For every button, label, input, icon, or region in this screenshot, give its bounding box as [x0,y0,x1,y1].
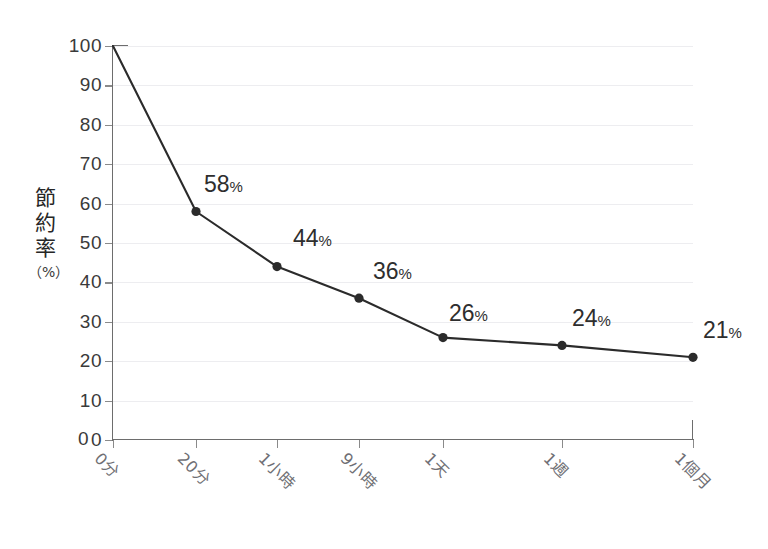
gridline [113,243,693,244]
y-axis-unit-text: （%） [28,262,62,282]
gridline [113,46,693,47]
data-point-marker [272,262,281,271]
data-point-label: 24% [572,305,611,332]
y-axis-tick-label: 60 [66,193,102,215]
y-axis-tick-label: 10 [66,390,102,412]
data-label-percent-sign: % [230,178,243,195]
data-point-label: 21% [703,317,742,344]
x-axis-tick [359,440,360,448]
y-axis-tick-label: 20 [66,350,102,372]
x-axis-category-label: 1小時 [254,446,302,494]
gridline [113,361,693,362]
y-axis-tick-label: 90 [66,74,102,96]
x-axis-category-label: 1個月 [670,446,718,494]
data-point-marker [438,333,447,342]
x-axis-tick [277,440,278,448]
x-axis-tick [693,440,694,448]
data-label-value: 21 [703,317,729,343]
x-axis-line [112,439,694,440]
data-label-value: 24 [572,305,598,331]
data-point-label: 36% [373,258,412,285]
data-point-marker [191,207,200,216]
data-label-percent-sign: % [475,307,488,324]
origin-zero-label: 0 [78,428,89,450]
y-axis-title: 節約率 （%） [28,186,62,282]
y-axis-top-cap [112,45,128,46]
data-point-label: 58% [204,171,243,198]
x-axis-tick [443,440,444,448]
gridline [113,164,693,165]
y-axis-tick-label: 80 [66,114,102,136]
y-axis-title-text: 節約率 [35,186,56,260]
gridline [113,125,693,126]
data-label-value: 58 [204,171,230,197]
data-label-percent-sign: % [319,232,332,249]
data-point-marker [354,294,363,303]
data-label-percent-sign: % [598,312,611,329]
y-axis-tick-label: 50 [66,232,102,254]
gridline [113,85,693,86]
x-axis-category-label: 9小時 [336,446,384,494]
x-axis-category-label: 20分 [173,446,217,490]
data-label-percent-sign: % [729,324,742,341]
y-axis-tick-label: 40 [66,271,102,293]
gridline [113,401,693,402]
x-axis-category-label: 1週 [539,446,575,482]
y-axis-tick-label: 70 [66,153,102,175]
x-axis-tick [113,440,114,448]
data-point-label: 44% [293,225,332,252]
data-label-value: 44 [293,225,319,251]
y-axis-tick-label: 30 [66,311,102,333]
y-axis-line [112,45,113,441]
data-point-label: 26% [449,300,488,327]
data-label-value: 36 [373,258,399,284]
data-label-value: 26 [449,300,475,326]
x-axis-category-label: 1天 [420,446,456,482]
forgetting-curve-chart: 1009080706050403020100 節約率 （%） 0 0分20分1小… [0,0,768,549]
y-axis-tick-labels: 1009080706050403020100 [56,0,102,500]
data-point-marker [557,341,566,350]
y-axis-tick-label: 100 [66,35,102,57]
x-axis-tick [196,440,197,448]
gridline [113,204,693,205]
x-axis-tick [562,440,563,448]
x-axis-right-cap [692,420,693,440]
data-label-percent-sign: % [399,265,412,282]
